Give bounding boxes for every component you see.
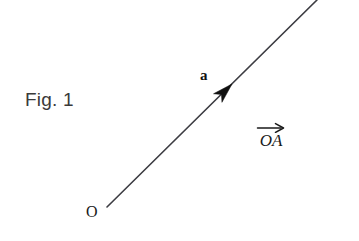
vector-notation-text: OA — [260, 132, 283, 149]
figure-caption: Fig. 1 — [25, 90, 74, 109]
figure-canvas: Fig. 1 a O OA — [0, 0, 359, 241]
ray-oa-line — [107, 0, 317, 207]
vector-diagram-svg — [0, 0, 359, 241]
vector-label-a: a — [200, 68, 208, 83]
vector-notation-oa: OA — [256, 122, 286, 149]
origin-label-o: O — [86, 204, 98, 220]
